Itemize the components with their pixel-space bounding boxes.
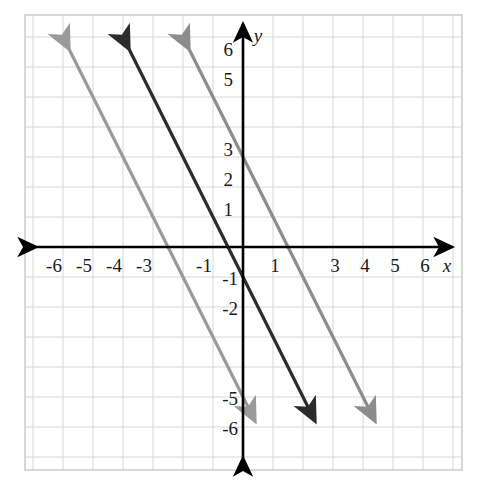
y-tick-label: 6 [224, 39, 234, 60]
y-tick-label: 5 [224, 69, 234, 90]
y-tick-label: -6 [222, 418, 238, 439]
x-tick-label: 4 [360, 255, 370, 276]
x-tick-label: 3 [330, 255, 340, 276]
y-tick-label: 3 [224, 139, 234, 160]
y-axis-name: y [252, 25, 263, 46]
y-tick-label: -2 [222, 298, 238, 319]
x-tick-label: -6 [46, 255, 62, 276]
y-tick-label: -5 [222, 388, 238, 409]
coordinate-graph-figure: -6 -5 -4 -3 -1 1 3 4 5 6 6 5 3 2 1 -1 -2… [0, 0, 480, 501]
x-tick-label: -4 [106, 255, 122, 276]
y-tick-label: 2 [224, 169, 234, 190]
x-tick-label: -1 [196, 255, 212, 276]
x-tick-label: -5 [76, 255, 92, 276]
x-tick-label: -3 [136, 255, 152, 276]
y-tick-label: 1 [224, 199, 234, 220]
x-tick-label: 6 [420, 255, 430, 276]
x-tick-label: 1 [270, 255, 280, 276]
coordinate-plane-svg: -6 -5 -4 -3 -1 1 3 4 5 6 6 5 3 2 1 -1 -2… [0, 0, 480, 501]
x-tick-label: 5 [390, 255, 400, 276]
y-tick-label: -1 [222, 268, 238, 289]
x-axis-name: x [442, 255, 452, 276]
